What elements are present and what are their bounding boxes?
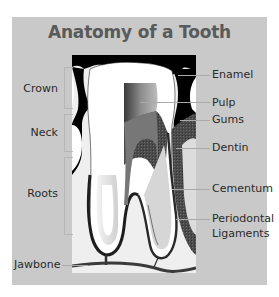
label-enamel: Enamel bbox=[212, 68, 253, 81]
dentin-leader bbox=[176, 148, 210, 149]
label-dentin: Dentin bbox=[212, 141, 249, 154]
pulp-leader bbox=[140, 102, 210, 103]
roots-bracket bbox=[64, 157, 73, 235]
label-gums: Gums bbox=[212, 113, 244, 126]
neck-bracket bbox=[64, 114, 73, 152]
tooth-illustration bbox=[72, 55, 196, 273]
label-roots: Roots bbox=[20, 187, 58, 200]
diagram-title: Anatomy of a Tooth bbox=[12, 22, 267, 42]
periodontal-leader bbox=[176, 219, 210, 220]
label-periodontal: Periodontal bbox=[212, 212, 274, 225]
jawbone-leader bbox=[62, 265, 88, 266]
cementum-leader bbox=[172, 189, 210, 190]
crown-bracket bbox=[64, 67, 73, 109]
label-crown: Crown bbox=[20, 82, 58, 95]
label-cementum: Cementum bbox=[212, 182, 273, 195]
label-ligaments: Ligaments bbox=[212, 227, 269, 240]
label-jawbone: Jawbone bbox=[14, 258, 58, 271]
gums-leader bbox=[180, 120, 210, 121]
label-neck: Neck bbox=[20, 126, 58, 139]
enamel-leader bbox=[178, 75, 210, 76]
label-pulp: Pulp bbox=[212, 96, 235, 109]
